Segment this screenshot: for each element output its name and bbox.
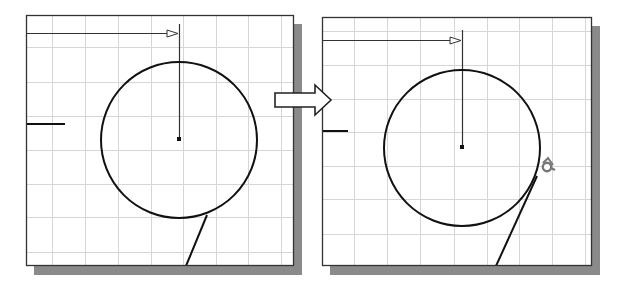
circle-center-point[interactable] bbox=[177, 137, 181, 141]
panel-background bbox=[322, 17, 592, 266]
diagram-canvas bbox=[0, 0, 626, 288]
panel-before bbox=[26, 15, 302, 275]
panel-after bbox=[322, 17, 600, 275]
circle-center-point[interactable] bbox=[460, 145, 464, 149]
panel-background bbox=[26, 15, 294, 266]
